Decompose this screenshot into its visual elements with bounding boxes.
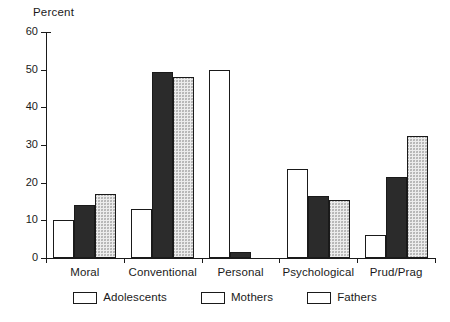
legend-entry-fathers: Fathers bbox=[307, 291, 377, 304]
y-axis-tick-label: 10 bbox=[26, 213, 38, 226]
y-axis-tick: 30 bbox=[0, 145, 46, 146]
bar-moral-fathers bbox=[95, 194, 116, 258]
light-stipple-swatch bbox=[307, 292, 331, 304]
x-axis-tick-mark bbox=[124, 258, 125, 263]
bar-prud-prag-fathers bbox=[407, 136, 428, 258]
chart-legend: AdolescentsMothersFathers bbox=[0, 291, 450, 304]
x-axis-label-personal: Personal bbox=[217, 265, 263, 279]
x-axis-tick-mark bbox=[202, 258, 203, 263]
legend-entry-adolescents: Adolescents bbox=[73, 291, 167, 304]
bar-conventional-fathers bbox=[173, 77, 194, 258]
x-axis-tick-mark bbox=[357, 258, 358, 263]
dark-crosshatch-swatch bbox=[201, 292, 225, 304]
y-axis-tick: 60 bbox=[0, 32, 46, 33]
bar-psychological-mothers bbox=[308, 196, 329, 258]
x-axis-label-psychological: Psychological bbox=[282, 265, 354, 279]
y-axis-tick-label: 40 bbox=[26, 100, 38, 113]
x-axis-label-prud-prag: Prud/Prag bbox=[370, 265, 423, 279]
legend-label: Adolescents bbox=[103, 291, 167, 304]
bar-moral-adolescents bbox=[53, 220, 74, 258]
plot-area bbox=[46, 32, 435, 258]
bar-personal-adolescents bbox=[209, 70, 230, 258]
bar-conventional-adolescents bbox=[131, 209, 152, 258]
bar-personal-mothers bbox=[230, 252, 251, 258]
y-axis-tick: 50 bbox=[0, 70, 46, 71]
bar-psychological-adolescents bbox=[287, 169, 308, 258]
bar-chart: Percent 6050403020100 MoralConventionalP… bbox=[0, 0, 450, 322]
x-axis-tick-mark bbox=[46, 258, 47, 263]
legend-entry-mothers: Mothers bbox=[201, 291, 273, 304]
y-axis-tick-label: 50 bbox=[26, 63, 38, 76]
x-axis-line bbox=[46, 258, 436, 259]
x-axis-tick-mark bbox=[279, 258, 280, 263]
y-axis-tick: 0 bbox=[0, 258, 46, 259]
y-axis-tick-label: 0 bbox=[32, 251, 38, 264]
bar-psychological-fathers bbox=[329, 200, 350, 258]
x-axis-tick-mark bbox=[435, 258, 436, 263]
y-axis-tick: 40 bbox=[0, 107, 46, 108]
x-axis-label-moral: Moral bbox=[70, 265, 99, 279]
legend-label: Mothers bbox=[231, 291, 273, 304]
y-axis-tick-label: 30 bbox=[26, 138, 38, 151]
y-axis-tick: 10 bbox=[0, 220, 46, 221]
y-axis-tick-label: 60 bbox=[26, 25, 38, 38]
x-axis-label-conventional: Conventional bbox=[129, 265, 197, 279]
legend-label: Fathers bbox=[337, 291, 377, 304]
y-axis-tick-label: 20 bbox=[26, 176, 38, 189]
bar-prud-prag-adolescents bbox=[365, 235, 386, 258]
y-axis-title: Percent bbox=[33, 6, 74, 18]
bar-conventional-mothers bbox=[152, 72, 173, 258]
white-swatch bbox=[73, 292, 97, 304]
bar-moral-mothers bbox=[74, 205, 95, 258]
y-axis-tick: 20 bbox=[0, 183, 46, 184]
bar-prud-prag-mothers bbox=[386, 177, 407, 258]
